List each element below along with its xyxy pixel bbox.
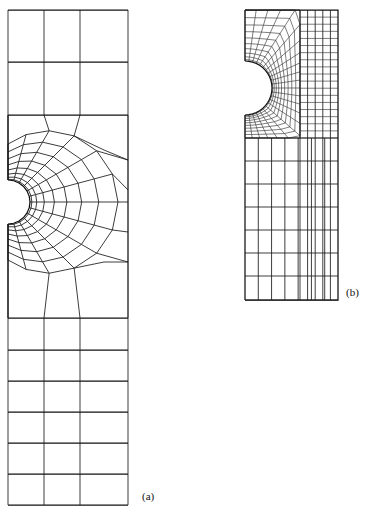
- figure-container: (a) (b): [0, 0, 368, 512]
- panel-a-label: (a): [142, 490, 155, 503]
- figure-background: [0, 0, 368, 512]
- mesh-figure-svg: (a) (b): [0, 0, 368, 512]
- panel-b-label: (b): [346, 286, 359, 299]
